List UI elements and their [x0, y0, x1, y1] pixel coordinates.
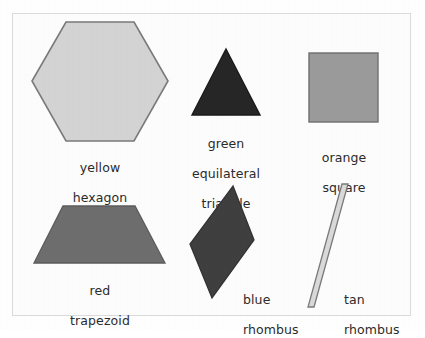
red-trapezoid-graphic — [32, 205, 167, 265]
yellow-hexagon-graphic — [30, 20, 170, 144]
label-tan-rhombus-line1: tan — [344, 292, 420, 307]
trapezoid-polygon — [34, 206, 165, 263]
label-blue-rhombus-line2: rhombus — [243, 322, 321, 337]
label-red-trapezoid-line1: red — [44, 283, 156, 298]
triangle-polygon — [192, 49, 260, 115]
label-green-triangle-line1: green — [181, 136, 271, 151]
label-orange-square-line1: orange — [298, 150, 390, 165]
label-red-trapezoid-line2: trapezoid — [44, 313, 156, 328]
label-red-trapezoid: red trapezoid — [44, 268, 156, 338]
label-tan-rhombus: tan rhombus — [344, 277, 420, 338]
square-rect — [309, 53, 378, 122]
label-tan-rhombus-line2: rhombus — [344, 322, 420, 337]
orange-square-graphic — [308, 52, 380, 124]
parallelogram-polygon — [308, 184, 348, 307]
hexagon-polygon — [32, 22, 168, 141]
label-green-triangle-line2: equilateral — [181, 166, 271, 181]
green-equilateral-triangle-graphic — [191, 48, 261, 117]
label-yellow-hexagon-line2: hexagon — [40, 190, 160, 205]
shape-yellow-hexagon — [30, 20, 170, 144]
label-yellow-hexagon-line1: yellow — [40, 160, 160, 175]
shape-green-triangle — [191, 48, 261, 117]
shape-red-trapezoid — [32, 205, 167, 265]
shape-orange-square — [308, 52, 380, 124]
